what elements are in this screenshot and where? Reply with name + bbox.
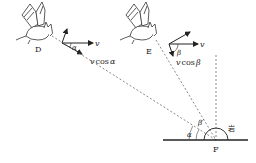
point-label-e: E xyxy=(146,47,152,56)
angle-label-beta-e: β xyxy=(176,49,181,57)
angle-label-alpha-f: α xyxy=(187,131,192,139)
cos-component-arrow-e xyxy=(169,44,173,56)
component-label-e: vcosβ xyxy=(176,58,201,67)
perpendicular-arrow-d xyxy=(62,29,67,43)
angle-label-beta-f: β xyxy=(197,119,202,127)
point-label-f: F xyxy=(213,145,219,154)
angle-arc-alpha-d xyxy=(70,43,71,47)
rock-label: 岩 xyxy=(228,124,235,133)
angle-label-alpha-d: α xyxy=(72,44,77,52)
rock-semicircle xyxy=(204,128,228,140)
velocity-vectors-e xyxy=(169,32,198,56)
bat-d-icon xyxy=(16,2,53,44)
dashed-line-e-to-f xyxy=(156,40,216,140)
bat-echolocation-diagram: D α v vcosα E β v vcosβ 岩 xyxy=(0,0,256,163)
point-label-d: D xyxy=(35,45,41,54)
dashed-line-d-to-f xyxy=(52,36,216,140)
bat-e-icon xyxy=(120,2,157,44)
velocity-label-v-e: v xyxy=(200,40,205,49)
perpendicular-arrow-e xyxy=(169,32,190,44)
angle-arc-alpha-f xyxy=(196,129,199,140)
component-label-d: vcosα xyxy=(90,57,116,66)
velocity-label-v-d: v xyxy=(95,39,100,48)
velocity-vectors-d xyxy=(62,29,93,54)
